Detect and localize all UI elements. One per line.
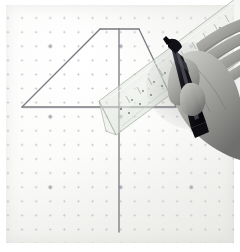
dotted-grid-paper bbox=[6, 5, 234, 243]
photo-scene: Hand drawing a trapezoid on dotted grid … bbox=[0, 0, 240, 252]
grid-major-dots bbox=[6, 5, 234, 243]
